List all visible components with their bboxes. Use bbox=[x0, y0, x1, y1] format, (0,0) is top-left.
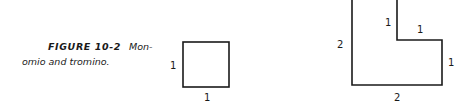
tromino: 2 2 1 1 1 bbox=[337, 0, 454, 103]
monomino: 1 1 bbox=[170, 42, 229, 103]
tromino-inner-horizontal-label: 1 bbox=[417, 24, 423, 35]
polyomino-diagram: 1 1 2 2 1 1 1 bbox=[0, 0, 472, 106]
tromino-l-shape bbox=[352, 0, 442, 85]
tromino-bottom-label: 2 bbox=[394, 92, 400, 103]
monomino-square bbox=[183, 42, 229, 87]
monomino-bottom-label: 1 bbox=[204, 92, 210, 103]
tromino-inner-vertical-label: 1 bbox=[385, 17, 391, 28]
tromino-left-label: 2 bbox=[337, 39, 343, 50]
monomino-left-label: 1 bbox=[170, 60, 176, 71]
tromino-right-label: 1 bbox=[448, 57, 454, 68]
